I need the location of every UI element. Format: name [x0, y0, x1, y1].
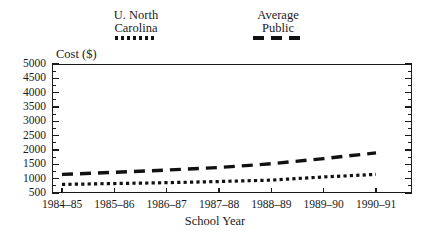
y-tick-mark-right — [405, 149, 412, 150]
x-tick-label: 1985–86 — [85, 198, 143, 210]
y-minor-tick-mark — [52, 157, 56, 158]
x-tick-label: 1986–87 — [138, 198, 196, 210]
y-minor-tick-mark — [52, 114, 56, 115]
y-tick-label: 4500 — [0, 72, 46, 84]
y-tick-mark — [52, 135, 59, 136]
axis-frame — [52, 64, 412, 193]
x-tick-label: 1990–91 — [347, 198, 405, 210]
y-minor-tick-mark-right — [408, 142, 412, 143]
plot-area: Cost ($) 5000450040003500300025002000150… — [0, 0, 430, 235]
y-tick-mark — [52, 106, 59, 107]
y-minor-tick-mark — [52, 85, 56, 86]
y-minor-tick-mark — [52, 185, 56, 186]
y-tick-label: 500 — [0, 187, 46, 199]
x-tick-mark — [166, 188, 167, 193]
y-tick-label: 1500 — [0, 158, 46, 170]
y-tick-mark-right — [405, 106, 412, 107]
y-tick-label: 4000 — [0, 87, 46, 99]
y-minor-tick-mark-right — [408, 85, 412, 86]
y-tick-label: 3000 — [0, 115, 46, 127]
x-tick-mark — [323, 188, 324, 193]
y-tick-mark-right — [405, 192, 412, 193]
y-tick-mark — [52, 121, 59, 122]
y-minor-tick-mark-right — [408, 171, 412, 172]
chart-figure: U. North Carolina Average Public Cost ($… — [0, 0, 430, 235]
x-tick-label: 1989–90 — [295, 198, 353, 210]
y-tick-mark — [52, 192, 59, 193]
y-minor-tick-mark — [52, 128, 56, 129]
x-tick-label: 1988–89 — [242, 198, 300, 210]
y-minor-tick-mark-right — [408, 128, 412, 129]
y-tick-mark-right — [405, 135, 412, 136]
y-tick-mark-right — [405, 78, 412, 79]
y-minor-tick-mark — [52, 99, 56, 100]
y-minor-tick-mark-right — [408, 157, 412, 158]
y-tick-mark-right — [405, 63, 412, 64]
y-tick-mark-right — [405, 121, 412, 122]
x-tick-mark — [271, 188, 272, 193]
y-tick-mark-right — [405, 164, 412, 165]
x-tick-label: 1987–88 — [190, 198, 248, 210]
y-minor-tick-mark-right — [408, 99, 412, 100]
y-axis-title: Cost ($) — [56, 47, 97, 62]
y-tick-mark — [52, 63, 59, 64]
y-tick-label: 2500 — [0, 130, 46, 142]
y-tick-mark — [52, 164, 59, 165]
y-minor-tick-mark-right — [408, 71, 412, 72]
y-tick-mark — [52, 178, 59, 179]
x-tick-mark — [61, 188, 62, 193]
x-tick-mark — [218, 188, 219, 193]
y-minor-tick-mark — [52, 171, 56, 172]
y-tick-mark — [52, 149, 59, 150]
y-tick-label: 2000 — [0, 144, 46, 156]
x-tick-label: 1984–85 — [33, 198, 91, 210]
y-tick-mark-right — [405, 178, 412, 179]
y-tick-label: 5000 — [0, 58, 46, 70]
y-minor-tick-mark-right — [408, 185, 412, 186]
y-minor-tick-mark — [52, 71, 56, 72]
y-tick-mark — [52, 78, 59, 79]
x-tick-mark — [114, 188, 115, 193]
y-tick-mark — [52, 92, 59, 93]
x-axis-title: School Year — [0, 214, 430, 229]
y-tick-label: 3500 — [0, 101, 46, 113]
y-minor-tick-mark — [52, 142, 56, 143]
x-tick-mark — [375, 188, 376, 193]
y-tick-label: 1000 — [0, 173, 46, 185]
y-tick-mark-right — [405, 92, 412, 93]
y-minor-tick-mark-right — [408, 114, 412, 115]
